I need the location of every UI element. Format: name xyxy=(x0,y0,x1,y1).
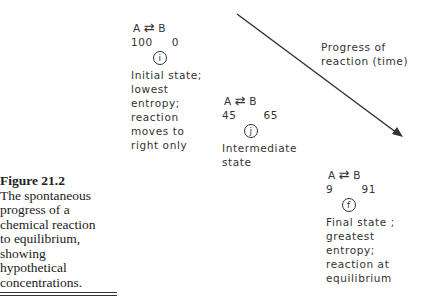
state-marker-icon: f xyxy=(342,198,356,212)
equation: A ⇄ B xyxy=(326,168,426,182)
figure-label: Figure 21.2 xyxy=(0,174,125,189)
state-description: Initial state; lowest entropy; reaction … xyxy=(131,68,231,152)
equation: A ⇄ B xyxy=(131,21,231,35)
state-marker-icon: j xyxy=(244,124,258,138)
caption-divider xyxy=(0,292,117,293)
equation: A ⇄ B xyxy=(222,94,322,108)
state-description: Intermediate state xyxy=(222,141,322,169)
state-marker-icon: i xyxy=(153,51,167,65)
intermediate-state: A ⇄ B 45 65 j Intermediate state xyxy=(222,94,322,169)
caption-divider xyxy=(0,295,117,296)
concentrations: 45 65 xyxy=(222,108,278,122)
state-description: Final state ; greatest entropy; reaction… xyxy=(326,215,426,285)
figure-caption: Figure 21.2 The spontaneous progress of … xyxy=(0,174,125,290)
initial-state: A ⇄ B 100 0 i Initial state; lowest entr… xyxy=(131,21,231,152)
progress-label: Progress of reaction (time) xyxy=(321,40,408,68)
final-state: A ⇄ B 9 91 f Final state ; greatest entr… xyxy=(326,168,426,285)
equilibrium-arrow-icon: ⇄ xyxy=(144,21,156,35)
concentrations: 100 0 xyxy=(131,35,179,49)
concentrations: 9 91 xyxy=(326,182,376,196)
equilibrium-arrow-icon: ⇄ xyxy=(235,94,247,108)
equilibrium-arrow-icon: ⇄ xyxy=(339,168,351,182)
